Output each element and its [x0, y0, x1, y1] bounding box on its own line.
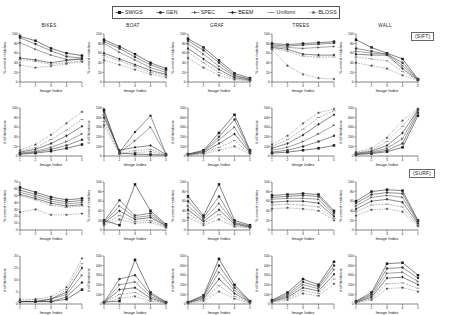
- x-axis-label: Image Index: [188, 237, 250, 241]
- svg-text:100: 100: [180, 180, 186, 184]
- svg-text:5: 5: [417, 306, 419, 310]
- svg-text:0: 0: [184, 302, 186, 306]
- svg-text:60: 60: [350, 199, 354, 203]
- x-axis-label: Image Index: [356, 163, 418, 167]
- svg-text:5: 5: [16, 290, 18, 294]
- legend-label: BLOGS: [319, 10, 337, 15]
- svg-text:20: 20: [14, 214, 18, 218]
- svg-text:20: 20: [14, 71, 18, 75]
- svg-text:4: 4: [234, 158, 236, 162]
- legend-label: Uniform: [277, 10, 296, 15]
- svg-text:5: 5: [333, 232, 335, 236]
- x-axis-label: Image Index: [104, 163, 166, 167]
- svg-text:0: 0: [352, 302, 354, 306]
- x-axis-label: Image Index: [104, 311, 166, 315]
- svg-text:40: 40: [266, 61, 270, 65]
- svg-text:4: 4: [234, 232, 236, 236]
- y-axis-label: # of Iterations: [3, 256, 7, 304]
- svg-text:100: 100: [348, 32, 354, 36]
- svg-text:60: 60: [14, 187, 18, 191]
- svg-text:4: 4: [150, 158, 152, 162]
- svg-text:100: 100: [264, 145, 270, 149]
- svg-text:500: 500: [348, 106, 354, 110]
- svg-text:0: 0: [268, 302, 270, 306]
- y-axis-label: # of Iterations: [87, 108, 91, 156]
- svg-text:300: 300: [180, 273, 186, 277]
- y-axis-label: % correct matches: [3, 182, 7, 230]
- svg-text:0: 0: [184, 154, 186, 158]
- svg-text:40: 40: [266, 209, 270, 213]
- svg-text:200: 200: [264, 135, 270, 139]
- svg-text:5: 5: [81, 232, 83, 236]
- x-axis-label: Image Index: [272, 163, 334, 167]
- legend: SWIGSGENSPECBEEMUniformBLOGS: [112, 6, 340, 19]
- svg-text:4: 4: [318, 158, 320, 162]
- x-axis-label: Image Index: [20, 89, 82, 93]
- x-axis-label: Image Index: [356, 237, 418, 241]
- svg-text:40: 40: [182, 61, 186, 65]
- svg-text:2: 2: [203, 232, 205, 236]
- y-axis-label: # of Iterations: [339, 108, 343, 156]
- svg-text:2: 2: [203, 84, 205, 88]
- svg-text:200: 200: [348, 135, 354, 139]
- svg-text:20: 20: [350, 71, 354, 75]
- svg-text:300: 300: [180, 125, 186, 129]
- legend-marker-triangle-icon: [191, 9, 200, 16]
- x-axis-label: Image Index: [272, 237, 334, 241]
- svg-text:500: 500: [96, 254, 102, 258]
- svg-text:100: 100: [96, 180, 102, 184]
- svg-text:60: 60: [350, 51, 354, 55]
- svg-text:2: 2: [35, 158, 37, 162]
- svg-text:200: 200: [96, 283, 102, 287]
- svg-text:0: 0: [100, 302, 102, 306]
- svg-text:100: 100: [180, 32, 186, 36]
- svg-text:1: 1: [355, 306, 357, 310]
- svg-text:2: 2: [287, 84, 289, 88]
- svg-text:100: 100: [348, 180, 354, 184]
- svg-text:5: 5: [165, 158, 167, 162]
- svg-text:2: 2: [119, 84, 121, 88]
- svg-text:15: 15: [14, 266, 18, 270]
- svg-text:200: 200: [96, 135, 102, 139]
- svg-text:100: 100: [264, 32, 270, 36]
- svg-text:4: 4: [402, 306, 404, 310]
- svg-text:100: 100: [180, 145, 186, 149]
- svg-text:0: 0: [268, 228, 270, 232]
- svg-text:20: 20: [182, 71, 186, 75]
- svg-text:60: 60: [266, 199, 270, 203]
- svg-text:1: 1: [19, 232, 21, 236]
- svg-text:100: 100: [264, 293, 270, 297]
- y-axis-label: # of Iterations: [171, 256, 175, 304]
- legend-marker-dash-icon: [267, 9, 276, 16]
- svg-text:200: 200: [180, 283, 186, 287]
- svg-text:2: 2: [287, 158, 289, 162]
- svg-text:300: 300: [264, 273, 270, 277]
- svg-text:400: 400: [180, 116, 186, 120]
- svg-text:100: 100: [180, 293, 186, 297]
- y-axis-label: % correct matches: [255, 182, 259, 230]
- y-axis-label: % correct matches: [339, 182, 343, 230]
- svg-text:5: 5: [417, 84, 419, 88]
- svg-text:500: 500: [264, 254, 270, 258]
- svg-text:40: 40: [98, 209, 102, 213]
- legend-item-beem: BEEM: [228, 9, 253, 16]
- svg-text:0: 0: [268, 80, 270, 84]
- svg-text:20: 20: [98, 219, 102, 223]
- y-axis-label: % correct matches: [87, 34, 91, 82]
- svg-text:5: 5: [417, 232, 419, 236]
- x-axis-label: Image Index: [356, 89, 418, 93]
- svg-text:5: 5: [249, 84, 251, 88]
- svg-text:5: 5: [81, 158, 83, 162]
- x-axis-label: Image Index: [20, 311, 82, 315]
- legend-label: BEEM: [238, 10, 253, 15]
- svg-text:500: 500: [180, 254, 186, 258]
- svg-text:5: 5: [333, 306, 335, 310]
- svg-text:2: 2: [203, 306, 205, 310]
- x-axis-label: Image Index: [272, 311, 334, 315]
- svg-text:70: 70: [14, 180, 18, 184]
- svg-text:4: 4: [150, 306, 152, 310]
- svg-text:20: 20: [14, 145, 18, 149]
- svg-text:2: 2: [287, 306, 289, 310]
- svg-text:4: 4: [66, 84, 68, 88]
- svg-text:2: 2: [371, 84, 373, 88]
